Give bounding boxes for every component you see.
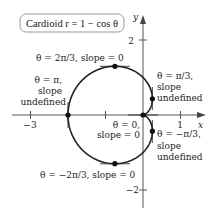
annotation-upper-right: θ = π/3, slope undefined bbox=[157, 71, 203, 103]
svg-text:slope: slope bbox=[38, 86, 62, 96]
x-tick-neg3: −3 bbox=[23, 120, 37, 130]
svg-text:slope = 0: slope = 0 bbox=[97, 130, 140, 140]
svg-text:θ = π/3,: θ = π/3, bbox=[157, 71, 193, 81]
svg-text:slope: slope bbox=[157, 141, 181, 151]
annotation-top: θ = 2π/3, slope = 0 bbox=[36, 53, 124, 63]
svg-text:θ = 0,: θ = 0, bbox=[113, 120, 140, 130]
x-axis-arrow-icon bbox=[197, 112, 206, 118]
svg-text:undefined: undefined bbox=[157, 93, 203, 103]
point-theta-0 bbox=[140, 112, 145, 117]
annotation-bottom: θ = −2π/3, slope = 0 bbox=[40, 170, 136, 180]
point-theta-pi-3 bbox=[150, 96, 155, 101]
svg-text:undefined: undefined bbox=[157, 152, 203, 162]
annotation-lower-right: θ = −π/3, slope undefined bbox=[157, 129, 203, 162]
y-tick-2: 2 bbox=[128, 36, 134, 46]
x-axis bbox=[12, 111, 206, 119]
y-axis-label: y bbox=[132, 12, 139, 22]
point-theta-2pi-3 bbox=[112, 64, 117, 69]
y-axis-arrow-icon bbox=[140, 15, 146, 24]
svg-text:undefined: undefined bbox=[20, 97, 66, 107]
svg-text:θ = −π/3,: θ = −π/3, bbox=[157, 129, 201, 139]
cardioid-diagram: Cardioid r = 1 − cos θ y x 2 −2 −3 1 θ =… bbox=[0, 0, 216, 210]
title: Cardioid r = 1 − cos θ bbox=[26, 18, 118, 29]
point-theta-pi bbox=[65, 112, 70, 117]
point-theta-neg-pi-3 bbox=[150, 129, 155, 134]
svg-text:θ = π,: θ = π, bbox=[35, 75, 62, 85]
y-axis bbox=[139, 15, 147, 208]
y-tick-neg2: −2 bbox=[126, 185, 139, 195]
svg-text:slope: slope bbox=[157, 82, 181, 92]
annotation-left: θ = π, slope undefined bbox=[20, 75, 66, 107]
point-theta-neg-2pi-3 bbox=[112, 161, 117, 166]
annotation-origin: θ = 0, slope = 0 bbox=[97, 120, 140, 140]
